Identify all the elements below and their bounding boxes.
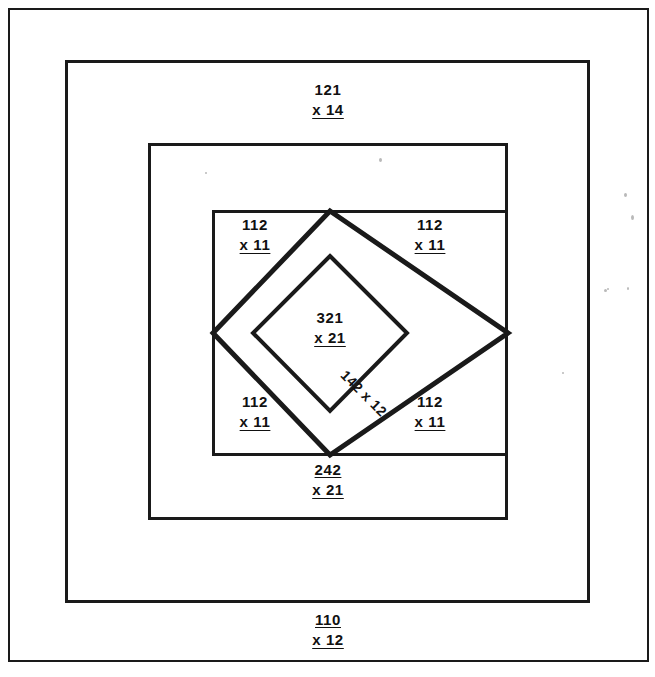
top-outer-label: 121 x 14 (268, 80, 388, 120)
scan-speck (562, 372, 564, 374)
bottom-right-label-line2: x 11 (385, 412, 475, 432)
center-label: 321 x 21 (280, 308, 380, 348)
bottom-mid-label-line1: 242 (268, 460, 388, 480)
bottom-mid-label: 242 x 21 (268, 460, 388, 500)
top-left-label-line1: 112 (210, 215, 300, 235)
bottom-outer-label-line1: 110 (268, 610, 388, 630)
bottom-mid-label-line2: x 21 (268, 480, 388, 500)
bottom-outer-label: 110 x 12 (268, 610, 388, 650)
bottom-left-label: 112 x 11 (210, 392, 300, 432)
bottom-outer-label-line2: x 12 (268, 630, 388, 650)
top-right-label-line1: 112 (385, 215, 475, 235)
top-outer-label-line1: 121 (268, 80, 388, 100)
center-label-line2: x 21 (280, 328, 380, 348)
bottom-right-label: 112 x 11 (385, 392, 475, 432)
top-outer-label-line2: x 14 (268, 100, 388, 120)
scan-speck (379, 158, 382, 162)
bottom-left-label-line2: x 11 (210, 412, 300, 432)
bottom-right-label-line1: 112 (385, 392, 475, 412)
top-right-label: 112 x 11 (385, 215, 475, 255)
top-right-label-line2: x 11 (385, 235, 475, 255)
scan-speck (627, 287, 629, 290)
scan-speck (631, 215, 634, 220)
top-left-label-line2: x 11 (210, 235, 300, 255)
diagram-canvas: 121 x 14 112 x 11 112 x 11 321 x 21 142 … (0, 0, 655, 677)
scan-speck (205, 172, 207, 174)
top-left-label: 112 x 11 (210, 215, 300, 255)
center-label-line1: 321 (280, 308, 380, 328)
scan-speck (624, 193, 627, 197)
bottom-left-label-line1: 112 (210, 392, 300, 412)
scan-speck (607, 288, 609, 290)
